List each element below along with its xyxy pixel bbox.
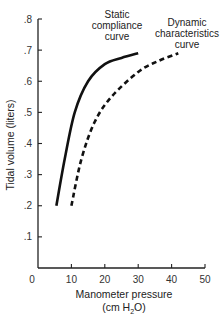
dynamic-characteristics-curve <box>71 53 178 206</box>
y-tick-label: .6 <box>24 76 33 87</box>
static-curve-label: curve <box>105 31 130 42</box>
y-axis-title: Tidal volume (liters) <box>4 99 16 190</box>
static-curve-label: Static <box>104 9 129 20</box>
x-tick-label: 10 <box>66 274 78 285</box>
x-tick-label: 40 <box>166 274 178 285</box>
y-tick-label: .1 <box>24 231 33 242</box>
x-axis-title: Manometer pressure <box>76 288 173 300</box>
annotations: StaticcompliancecurveDynamiccharacterist… <box>92 9 219 50</box>
x-tick-label: 20 <box>99 274 111 285</box>
x-tick-label: 50 <box>199 274 211 285</box>
series-group <box>56 53 178 206</box>
dynamic-curve-label: characteristics <box>155 28 219 39</box>
x-axis-unit: (cm H2O) <box>102 301 146 315</box>
y-tick-label: .4 <box>24 138 33 149</box>
static-curve-label: compliance <box>92 20 143 31</box>
y-tick-label: .3 <box>24 169 33 180</box>
dynamic-curve-label: Dynamic <box>168 17 207 28</box>
x-tick-label: 30 <box>133 274 145 285</box>
y-tick-label: .5 <box>24 107 33 118</box>
y-tick-label: .2 <box>24 200 33 211</box>
dynamic-curve-label: curve <box>175 39 200 50</box>
compliance-chart: .1.2.3.4.5.6.7.801020304050 Staticcompli… <box>0 0 223 322</box>
axes: .1.2.3.4.5.6.7.801020304050 <box>24 14 211 286</box>
static-compliance-curve <box>56 53 138 206</box>
x-tick-label: 0 <box>29 274 35 285</box>
y-tick-label: .8 <box>24 14 33 25</box>
y-tick-label: .7 <box>24 45 33 56</box>
